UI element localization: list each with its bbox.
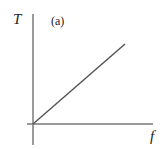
x-axis-label: f bbox=[150, 129, 154, 144]
y-axis-label: T bbox=[13, 12, 21, 27]
panel-label: (a) bbox=[51, 15, 64, 27]
plot-area bbox=[0, 0, 166, 149]
diagram-figure: T (a) f bbox=[0, 0, 166, 149]
data-line bbox=[33, 44, 125, 124]
